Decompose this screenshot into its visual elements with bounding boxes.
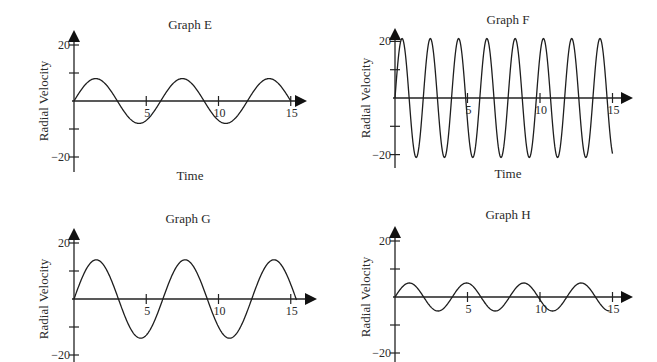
y-axis-label: Radial Velocity	[358, 57, 373, 138]
x-tick-label-15: 15	[608, 302, 620, 316]
x-axis-label: Time	[495, 166, 522, 181]
x-tick-label-10: 10	[535, 302, 547, 316]
graph-title: Graph G	[165, 211, 210, 226]
y-tick-label-top: 20	[379, 34, 391, 48]
x-tick-label-15: 15	[608, 103, 620, 117]
y-axis-arrow-icon	[389, 226, 401, 238]
y-axis-arrow-icon	[68, 228, 80, 240]
y-tick-label-top: 20	[58, 236, 70, 250]
y-axis-arrow-icon	[68, 30, 80, 42]
y-axis-label: Radial Velocity	[36, 60, 51, 141]
y-tick-label-top: 20	[58, 38, 70, 52]
graph-f: Graph F Radial Velocity Time 20 −20 5 10…	[358, 12, 633, 181]
graph-h: Graph H Radial Velocity 20 −20 5 10 15	[358, 207, 633, 362]
graph-g: Graph G Radial Velocity 20 −20 5 10 15	[36, 211, 317, 362]
plot-area	[389, 28, 633, 168]
x-tick-label-10: 10	[535, 103, 547, 117]
y-axis-label: Radial Velocity	[36, 258, 51, 339]
x-tick-label-15: 15	[286, 106, 298, 120]
y-axis-label: Radial Velocity	[358, 256, 373, 337]
graph-title: Graph H	[485, 207, 530, 222]
x-axis-arrow-icon	[295, 95, 307, 107]
x-axis-arrow-icon	[305, 293, 317, 305]
plot-area	[68, 30, 307, 172]
plot-area	[389, 226, 633, 362]
y-tick-label-bottom: −20	[51, 348, 70, 362]
x-tick-label-15: 15	[286, 304, 298, 318]
y-tick-label-bottom: −20	[372, 346, 391, 360]
graphs-canvas: Graph E Radial Velocity Time 20 −20 5 10…	[0, 0, 657, 362]
x-tick-label-10: 10	[214, 304, 226, 318]
graph-title: Graph F	[487, 12, 530, 27]
x-axis-arrow-icon	[621, 92, 633, 104]
y-tick-label-bottom: −20	[372, 148, 391, 162]
x-tick-label-5: 5	[466, 302, 472, 316]
x-axis-label: Time	[177, 168, 204, 183]
graphs-figure: Graph E Radial Velocity Time 20 −20 5 10…	[0, 0, 657, 362]
y-tick-label-top: 20	[379, 234, 391, 248]
x-axis-arrow-icon	[621, 291, 633, 303]
graph-e: Graph E Radial Velocity Time 20 −20 5 10…	[36, 17, 307, 183]
graph-title: Graph E	[168, 17, 212, 32]
plot-area	[68, 228, 317, 362]
x-tick-label-5: 5	[144, 304, 150, 318]
y-tick-label-bottom: −20	[51, 150, 70, 164]
